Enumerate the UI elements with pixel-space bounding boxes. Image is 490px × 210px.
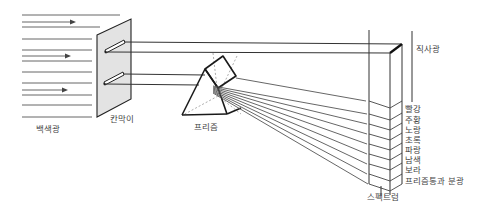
label-color-orange: 주황 <box>405 115 421 125</box>
label-color-violet: 보라 <box>405 165 421 175</box>
label-dispersed-caption: 프리즘통과 분광 <box>405 176 464 186</box>
caption-text: 프리즘통과 분광 <box>405 176 464 186</box>
label-color-blue: 파랑 <box>405 145 421 155</box>
partition-screen <box>97 19 131 117</box>
label-color-red: 빨강 <box>405 104 421 114</box>
dispersed-rays <box>213 78 368 184</box>
arrow-icon <box>70 20 76 25</box>
arrow-icon <box>65 54 71 59</box>
label-direct-light: 직사광 <box>416 44 440 54</box>
spectrum-color-labels: 빨강 주황 노랑 초록 파랑 남색 보라 <box>405 104 421 175</box>
label-color-green: 초록 <box>405 135 421 145</box>
arrow-icon <box>62 88 68 93</box>
label-color-yellow: 노랑 <box>405 125 421 135</box>
prism <box>182 53 241 115</box>
label-partition: 칸막이 <box>110 114 134 124</box>
label-color-indigo: 남색 <box>405 155 421 165</box>
direct-light-beams <box>106 42 401 53</box>
prism-dispersion-diagram: 백색광 칸막이 프리즘 직사광 빨강 주황 노랑 초록 파랑 남색 보라 프리즘… <box>0 0 490 210</box>
label-spectrum: 스펙트럼 <box>367 192 399 202</box>
label-prism: 프리즘 <box>194 122 218 132</box>
label-white-light: 백색광 <box>36 124 60 134</box>
